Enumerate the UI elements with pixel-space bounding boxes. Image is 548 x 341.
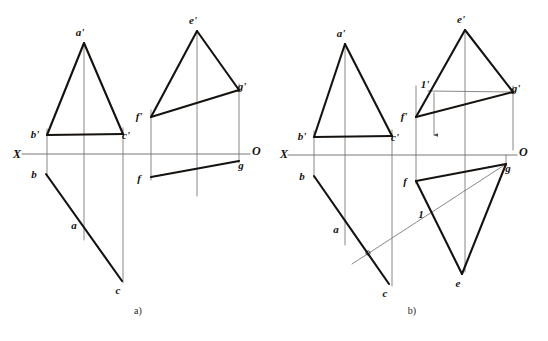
point-label-panel-a-b-prime: b': [31, 128, 40, 140]
point-label-panel-b-b-prime: b': [298, 130, 307, 142]
caption-a: a): [134, 305, 142, 317]
caption-b: b): [408, 305, 416, 317]
axis-label-x-axis-a: X: [12, 147, 22, 161]
axis-label-x-axis-b: X: [279, 147, 289, 161]
point-label-panel-b-one-prime: 1': [421, 78, 430, 90]
point-label-panel-a-g-prime: g': [237, 80, 247, 92]
point-label-panel-b-a-prime: a': [337, 27, 346, 39]
point-label-panel-a-b: b: [31, 168, 37, 180]
point-label-panel-a-a: a: [71, 219, 77, 231]
point-label-panel-b-c-prime: c': [391, 131, 399, 143]
point-label-panel-a-c: c: [116, 284, 121, 296]
point-label-panel-b-b: b: [299, 170, 305, 182]
point-label-panel-a-a-prime: a': [76, 26, 85, 38]
axis-label-o-axis-b: O: [519, 145, 528, 159]
axis-label-o-axis-a: O: [252, 144, 261, 158]
point-label-panel-b-g-prime: g': [511, 82, 521, 94]
drawing-canvas: a'b'c'bace'g'f'gf a'b'c'bace'g'1'f'gf1e …: [0, 0, 548, 341]
point-label-panel-b-e-prime: e': [457, 13, 465, 25]
point-label-panel-b-c: c: [383, 287, 388, 299]
canvas-background: [0, 0, 548, 341]
point-label-panel-b-e: e: [456, 277, 461, 289]
point-label-panel-b-one: 1: [418, 208, 424, 220]
segment-abc-prime-base: [47, 134, 123, 135]
point-label-panel-b-f-prime: f': [401, 110, 408, 122]
point-label-panel-b-g: g: [504, 162, 511, 174]
projection-drawing-figure: a'b'c'bace'g'f'gf a'b'c'bace'g'1'f'gf1e …: [0, 0, 548, 341]
point-label-panel-a-c-prime: c': [122, 129, 130, 141]
point-label-panel-b-a: a: [333, 223, 339, 235]
segment-abc-prime-base: [314, 136, 392, 137]
point-label-panel-a-f-prime: f': [136, 110, 143, 122]
point-label-panel-a-g: g: [237, 159, 244, 171]
point-label-panel-a-e-prime: e': [189, 14, 197, 26]
